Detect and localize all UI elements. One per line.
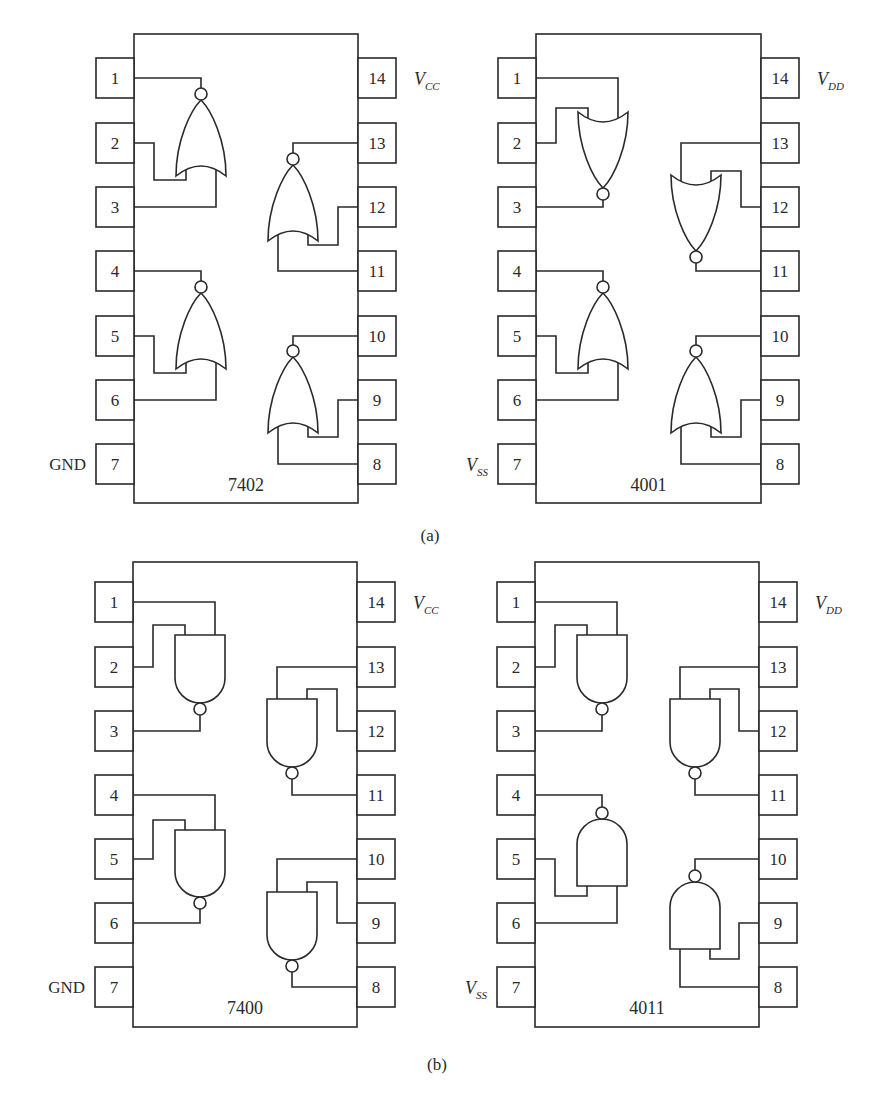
- pin-9: 9: [759, 903, 797, 943]
- pin-number: 5: [513, 327, 522, 346]
- pin-number: 10: [369, 327, 386, 346]
- pin-3: 3: [497, 711, 535, 751]
- pin-number: 6: [111, 391, 120, 410]
- pin-13: 13: [759, 647, 797, 687]
- inversion-bubble: [690, 345, 702, 357]
- inversion-bubble: [287, 345, 299, 357]
- pin-7: 7: [497, 967, 535, 1007]
- pin-number: 11: [772, 262, 788, 281]
- pin-13: 13: [357, 647, 395, 687]
- ground-label: VSS: [465, 978, 488, 1001]
- pin-6: 6: [95, 903, 133, 943]
- caption-a: (a): [421, 526, 440, 545]
- pin-number: 7: [110, 978, 119, 997]
- inversion-bubble: [194, 897, 206, 909]
- pin-number: 9: [373, 391, 382, 410]
- chip-4011: 11421331241151069784011VDDVSS: [465, 562, 842, 1027]
- pin-number: 4: [512, 786, 521, 805]
- pin-11: 11: [759, 775, 797, 815]
- pin-13: 13: [358, 123, 396, 163]
- gate-body: [577, 819, 627, 886]
- pin-14: 14: [759, 582, 797, 622]
- pin-12: 12: [358, 187, 396, 227]
- pin-9: 9: [761, 380, 799, 420]
- pin-3: 3: [95, 711, 133, 751]
- part-number-label: 7402: [228, 475, 264, 495]
- pin-8: 8: [761, 444, 799, 484]
- pin-number: 1: [513, 69, 522, 88]
- pin-number: 3: [110, 722, 119, 741]
- pin-2: 2: [96, 123, 134, 163]
- pin-number: 10: [772, 327, 789, 346]
- pin-3: 3: [96, 187, 134, 227]
- inversion-bubble: [689, 870, 701, 882]
- pin-6: 6: [498, 380, 536, 420]
- pin-number: 3: [512, 722, 521, 741]
- ic-pinout-diagram: 11421331241151069787402VCCGND11421331241…: [0, 0, 877, 1094]
- inversion-bubble: [287, 153, 299, 165]
- chips-layer: 11421331241151069787402VCCGND11421331241…: [48, 34, 844, 1027]
- pin-number: 9: [774, 914, 783, 933]
- inversion-bubble: [597, 281, 609, 293]
- pin-5: 5: [498, 316, 536, 356]
- pin-number: 7: [111, 455, 120, 474]
- pin-number: 12: [368, 722, 385, 741]
- pin-14: 14: [358, 58, 396, 98]
- pin-14: 14: [761, 58, 799, 98]
- gate-body: [175, 830, 225, 897]
- pin-number: 6: [513, 391, 522, 410]
- pin-number: 8: [372, 978, 381, 997]
- pin-1: 1: [498, 58, 536, 98]
- pin-1: 1: [96, 58, 134, 98]
- pin-number: 13: [369, 134, 386, 153]
- inversion-bubble: [195, 88, 207, 100]
- pin-7: 7: [498, 444, 536, 484]
- pin-number: 6: [110, 914, 119, 933]
- pin-4: 4: [498, 251, 536, 291]
- pin-number: 13: [770, 658, 787, 677]
- gate-body: [670, 699, 720, 767]
- pin-number: 11: [770, 786, 786, 805]
- pin-12: 12: [759, 711, 797, 751]
- pin-number: 4: [513, 262, 522, 281]
- pin-3: 3: [498, 187, 536, 227]
- pin-1: 1: [95, 582, 133, 622]
- pin-number: 9: [372, 914, 381, 933]
- part-number-label: 4001: [631, 475, 667, 495]
- inversion-bubble: [597, 188, 609, 200]
- pin-7: 7: [95, 967, 133, 1007]
- pin-11: 11: [358, 251, 396, 291]
- pin-number: 14: [369, 69, 387, 88]
- pin-14: 14: [357, 582, 395, 622]
- chip-7402: 11421331241151069787402VCCGND: [49, 34, 440, 503]
- pin-number: 13: [368, 658, 385, 677]
- power-label: VCC: [413, 593, 439, 616]
- pin-2: 2: [95, 647, 133, 687]
- gate-body: [175, 635, 225, 703]
- part-number-label: 7400: [227, 998, 263, 1018]
- pin-6: 6: [497, 903, 535, 943]
- inversion-bubble: [194, 703, 206, 715]
- pin-11: 11: [357, 775, 395, 815]
- pin-number: 6: [512, 914, 521, 933]
- pin-4: 4: [96, 251, 134, 291]
- inversion-bubble: [286, 767, 298, 779]
- power-label: VDD: [817, 69, 844, 92]
- pin-number: 7: [513, 455, 522, 474]
- chip-4001: 11421331241151069784001VDDVSS: [466, 34, 844, 503]
- chip-body: [134, 34, 358, 503]
- pin-number: 7: [512, 978, 521, 997]
- pin-13: 13: [761, 123, 799, 163]
- pin-2: 2: [498, 123, 536, 163]
- pin-number: 14: [770, 593, 788, 612]
- pin-number: 5: [110, 850, 119, 869]
- ground-label: VSS: [466, 455, 489, 478]
- inversion-bubble: [690, 251, 702, 263]
- ground-label: GND: [49, 455, 86, 474]
- pin-number: 8: [776, 455, 785, 474]
- ground-label: GND: [48, 978, 85, 997]
- inversion-bubble: [689, 767, 701, 779]
- gate-body: [670, 882, 720, 949]
- pin-number: 12: [770, 722, 787, 741]
- inversion-bubble: [195, 281, 207, 293]
